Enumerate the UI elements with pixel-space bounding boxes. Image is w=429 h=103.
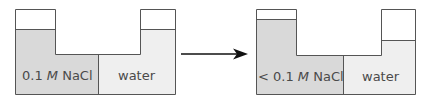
before-salt-solution [16,30,99,95]
right-arrow-icon [181,49,248,60]
after-u-tube: < 0.1 M NaCl water [257,10,416,95]
before-water [99,30,176,95]
before-u-tube: 0.1 M NaCl water [16,10,176,95]
after-water-label: water [362,69,400,84]
after-salt-label: < 0.1 M NaCl [258,69,344,84]
after-water [344,41,416,95]
before-water-label: water [118,68,156,83]
osmosis-diagram: 0.1 M NaCl water < 0.1 M NaCl water [0,0,429,103]
before-salt-label: 0.1 M NaCl [22,68,93,83]
